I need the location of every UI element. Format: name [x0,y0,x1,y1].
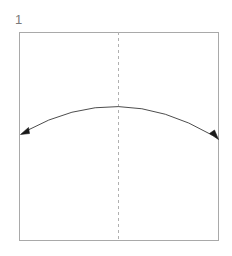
origami-step-diagram: 1 [0,0,232,256]
fold-figure [0,0,232,256]
